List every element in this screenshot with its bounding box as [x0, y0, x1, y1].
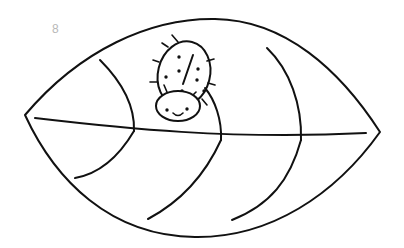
leaf-vein — [75, 131, 134, 178]
ladybug-eye — [165, 108, 168, 111]
leaf-vein — [267, 48, 301, 140]
ladybug-spot — [164, 75, 167, 78]
ladybug-hair — [208, 83, 215, 85]
ladybug-spot — [177, 69, 180, 72]
ladybug-hair — [172, 35, 178, 42]
ladybug-hair — [153, 60, 159, 62]
ladybug-spot — [195, 78, 198, 81]
ladybug-eye — [185, 107, 188, 110]
ladybug-hair — [164, 85, 167, 92]
leaf-vein — [100, 60, 134, 131]
ladybug-head — [156, 91, 200, 121]
ladybug-spot — [177, 55, 180, 58]
ladybug-hair — [162, 43, 168, 47]
leaf — [25, 19, 380, 237]
ladybug — [150, 35, 217, 121]
leaf-vein — [205, 88, 221, 140]
ladybug-wing-line — [183, 55, 193, 84]
ladybug-spot — [196, 67, 199, 70]
leaf-vein — [232, 140, 301, 220]
ladybug-hair — [202, 99, 207, 105]
leaf-vein — [148, 140, 221, 219]
leaf-midrib — [35, 118, 366, 135]
leaf-outline — [25, 19, 380, 237]
ladybug-spot — [202, 89, 205, 92]
coloring-illustration — [0, 0, 404, 248]
